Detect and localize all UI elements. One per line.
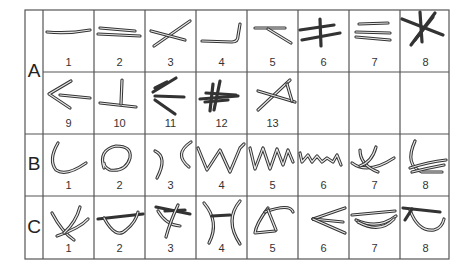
cell-number-a13: 13 bbox=[247, 117, 298, 129]
shape-C6 bbox=[313, 208, 345, 233]
cell-number-b8: 8 bbox=[400, 179, 451, 191]
cell-number-a7: 7 bbox=[349, 56, 400, 68]
shape-B1 bbox=[52, 143, 86, 172]
shape-B2 bbox=[103, 146, 131, 170]
shape-A7 bbox=[356, 23, 390, 40]
shape-A11 bbox=[153, 78, 184, 114]
shape-B5 bbox=[250, 148, 293, 169]
shape-A4 bbox=[202, 24, 240, 42]
cell-number-c1: 1 bbox=[43, 242, 94, 254]
cell-number-c6: 6 bbox=[298, 242, 349, 254]
row-label-a: A bbox=[25, 60, 43, 82]
classification-grid: .o{stroke:#333;stroke-width:3.2;} .i{str… bbox=[0, 0, 473, 279]
shape-A9 bbox=[49, 81, 90, 108]
shape-A1 bbox=[47, 30, 90, 33]
shape-A3 bbox=[151, 21, 190, 46]
row-label-c: C bbox=[25, 216, 43, 238]
shape-C8 bbox=[403, 208, 444, 230]
cell-number-b1: 1 bbox=[43, 179, 94, 191]
cell-number-a1: 1 bbox=[43, 56, 94, 68]
shape-A10 bbox=[100, 80, 136, 107]
cell-number-b5: 5 bbox=[247, 179, 298, 191]
shape-B3 bbox=[155, 142, 191, 178]
cell-number-b6: 6 bbox=[298, 179, 349, 191]
cell-number-a12: 12 bbox=[196, 117, 247, 129]
cell-number-b4: 4 bbox=[196, 179, 247, 191]
cell-number-a4: 4 bbox=[196, 56, 247, 68]
shape-A12 bbox=[200, 81, 238, 111]
shape-C1 bbox=[52, 207, 88, 240]
cell-number-b2: 2 bbox=[94, 179, 145, 191]
row-label-b: B bbox=[25, 153, 43, 175]
cell-number-c5: 5 bbox=[247, 242, 298, 254]
cell-number-b7: 7 bbox=[349, 179, 400, 191]
cell-number-a6: 6 bbox=[298, 56, 349, 68]
cell-number-b3: 3 bbox=[145, 179, 196, 191]
cell-number-a11: 11 bbox=[145, 117, 196, 129]
shape-C2 bbox=[98, 212, 143, 233]
shape-B6 bbox=[300, 153, 341, 165]
cell-number-a10: 10 bbox=[94, 117, 145, 129]
shape-A8 bbox=[402, 12, 443, 45]
shape-B8 bbox=[410, 141, 446, 172]
shape-B4 bbox=[198, 144, 244, 172]
cell-number-c2: 2 bbox=[94, 242, 145, 254]
shape-B7 bbox=[352, 147, 394, 172]
shape-C5 bbox=[255, 208, 293, 234]
cell-number-a8: 8 bbox=[400, 56, 451, 68]
cell-number-a5: 5 bbox=[247, 56, 298, 68]
cell-number-c7: 7 bbox=[349, 242, 400, 254]
shape-A5 bbox=[255, 28, 291, 43]
cell-number-a3: 3 bbox=[145, 56, 196, 68]
cell-number-a2: 2 bbox=[94, 56, 145, 68]
shape-C7 bbox=[352, 211, 396, 227]
shape-C3 bbox=[156, 205, 190, 237]
shape-A2 bbox=[98, 28, 140, 36]
shape-C4 bbox=[204, 201, 240, 244]
cell-number-c3: 3 bbox=[145, 242, 196, 254]
cell-number-c4: 4 bbox=[196, 242, 247, 254]
cell-number-c8: 8 bbox=[400, 242, 451, 254]
shape-A13 bbox=[258, 80, 295, 110]
cell-number-a9: 9 bbox=[43, 117, 94, 129]
shape-A6 bbox=[300, 19, 340, 46]
